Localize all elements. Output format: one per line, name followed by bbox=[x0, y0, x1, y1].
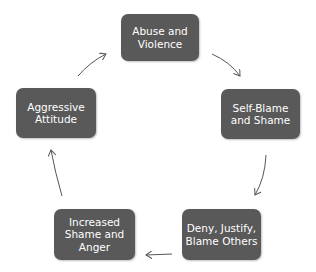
node-label: Increased Shame and Anger bbox=[65, 216, 125, 254]
node-increased-shame-and-anger: Increased Shame and Anger bbox=[54, 209, 135, 260]
node-aggressive-attitude: Aggressive Attitude bbox=[16, 88, 96, 138]
arrow-deny-to-increased bbox=[146, 254, 172, 255]
node-label: Aggressive Attitude bbox=[27, 101, 85, 126]
arrow-selfblame-to-deny bbox=[255, 155, 266, 195]
arrow-aggressive-to-abuse bbox=[78, 54, 106, 76]
node-deny-justify-blame: Deny, Justify, Blame Others bbox=[182, 209, 261, 260]
node-self-blame-and-shame: Self-Blame and Shame bbox=[221, 89, 300, 139]
node-label: Abuse and Violence bbox=[132, 25, 188, 50]
node-label: Deny, Justify, Blame Others bbox=[186, 222, 258, 247]
arrow-abuse-to-selfblame bbox=[212, 54, 240, 76]
arrow-increased-to-aggressive bbox=[51, 150, 62, 196]
node-label: Self-Blame and Shame bbox=[231, 102, 291, 127]
node-abuse-and-violence: Abuse and Violence bbox=[121, 14, 199, 61]
